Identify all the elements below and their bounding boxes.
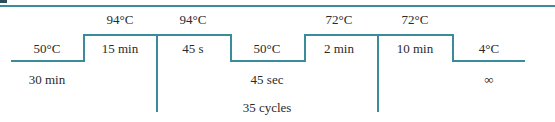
rise-to-94c (83, 34, 85, 62)
step-5-time: 2 min (324, 42, 354, 55)
cycle-start-divider (156, 34, 158, 112)
step-5-temp: 72°C (326, 13, 353, 26)
step-3-time: 45 s (182, 42, 203, 55)
corner-mark (0, 0, 7, 3)
step-7-time-infinity: ∞ (484, 73, 493, 86)
step-2-temp: 94°C (107, 13, 134, 26)
step-4-temp: 50°C (254, 42, 281, 55)
step-1-time: 30 min (29, 73, 65, 86)
step-3-temp: 94°C (180, 13, 207, 26)
segment-4c-hold (452, 60, 525, 62)
segment-50c-initial (11, 60, 85, 62)
step-2-time: 15 min (102, 42, 138, 55)
drop-to-4c (452, 34, 454, 62)
step-6-temp: 72°C (402, 13, 429, 26)
step-4-time: 45 sec (251, 73, 284, 86)
step-7-temp: 4°C (479, 42, 499, 55)
cycle-count-label: 35 cycles (243, 101, 292, 114)
segment-50c-anneal (230, 60, 306, 62)
cycle-end-divider (377, 34, 379, 112)
rise-to-72c (304, 34, 306, 62)
segment-72c (304, 34, 454, 36)
top-border (0, 5, 555, 7)
step-6-time: 10 min (397, 42, 433, 55)
pcr-thermal-profile-diagram: 50°C 30 min 94°C 15 min 94°C 45 s 50°C 4… (0, 0, 555, 122)
step-1-temp: 50°C (34, 42, 61, 55)
drop-to-50c (230, 34, 232, 62)
